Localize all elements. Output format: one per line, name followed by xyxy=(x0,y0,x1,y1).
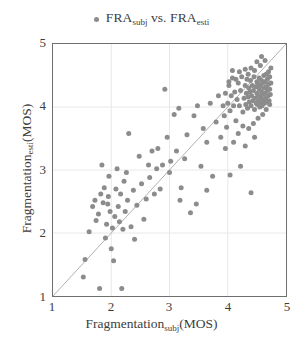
legend-dot-icon xyxy=(94,17,99,22)
scatter-point xyxy=(248,78,253,83)
scatter-point xyxy=(267,102,272,107)
scatter-point xyxy=(104,222,109,227)
scatter-point xyxy=(239,74,244,79)
scatter-point xyxy=(232,89,237,94)
scatter-point xyxy=(90,204,95,209)
scatter-point xyxy=(267,74,272,79)
scatter-point xyxy=(177,198,182,203)
scatter-point xyxy=(132,237,137,242)
scatter-point xyxy=(267,87,272,92)
plot-canvas xyxy=(53,44,286,296)
scatter-point xyxy=(152,191,157,196)
scatter-point xyxy=(139,181,144,186)
scatter-point xyxy=(125,198,130,203)
scatter-point xyxy=(249,103,254,108)
scatter-point xyxy=(112,214,117,219)
scatter-point xyxy=(246,72,251,77)
scatter-point xyxy=(99,162,104,167)
legend-subscript-subj: subj xyxy=(132,16,147,26)
scatter-point xyxy=(229,93,234,98)
scatter-point xyxy=(182,156,187,161)
scatter-point xyxy=(103,236,108,241)
x-axis-title-subscript: subj xyxy=(164,323,179,333)
y-axis-title: Fragmentationesti(MOS) xyxy=(19,33,36,303)
scatter-point xyxy=(113,186,118,191)
scatter-point xyxy=(235,97,240,102)
scatter-point xyxy=(268,65,273,70)
scatter-point xyxy=(226,79,231,84)
scatter-point xyxy=(179,185,184,190)
scatter-point xyxy=(168,159,173,164)
scatter-point xyxy=(191,113,196,118)
scatter-point xyxy=(237,103,242,108)
scatter-point xyxy=(106,174,111,179)
scatter-point xyxy=(259,54,264,59)
scatter-point xyxy=(233,118,238,123)
scatter-point xyxy=(260,112,265,117)
x-axis-title: Fragmentationsubj(MOS) xyxy=(0,316,303,333)
scatter-point xyxy=(233,77,238,82)
scatter-point xyxy=(162,87,167,92)
scatter-point xyxy=(268,81,273,86)
scatter-point xyxy=(174,149,179,154)
scatter-point xyxy=(204,188,209,193)
scatter-point xyxy=(225,101,230,106)
scatter-point xyxy=(224,125,229,130)
scatter-point xyxy=(231,103,236,108)
scatter-point xyxy=(231,140,236,145)
scatter-point xyxy=(249,65,254,70)
scatter-plot-figure: FRAsubj vs. FRAesti 5 4 3 2 1 1 2 3 4 5 … xyxy=(0,0,303,348)
scatter-point xyxy=(268,92,273,97)
scatter-point xyxy=(109,246,114,251)
scatter-point xyxy=(236,131,241,136)
scatter-point xyxy=(172,112,177,117)
scatter-point xyxy=(176,106,181,111)
chart-legend: FRAsubj vs. FRAesti xyxy=(0,6,303,30)
scatter-point xyxy=(146,162,151,167)
scatter-point xyxy=(246,126,251,131)
scatter-point xyxy=(210,174,215,179)
scatter-point xyxy=(123,209,128,214)
scatter-point xyxy=(108,209,113,214)
scatter-point xyxy=(258,63,263,68)
legend-label: FRAsubj vs. FRAesti xyxy=(106,10,209,27)
scatter-point xyxy=(144,196,149,201)
scatter-point xyxy=(154,166,159,171)
scatter-point xyxy=(83,257,88,262)
scatter-point xyxy=(115,166,120,171)
scatter-point xyxy=(165,135,170,140)
scatter-point xyxy=(201,126,206,131)
legend-subscript-esti: esti xyxy=(197,16,210,26)
scatter-point xyxy=(137,154,142,159)
scatter-point xyxy=(87,229,92,234)
scatter-point xyxy=(218,135,223,140)
scatter-point xyxy=(228,173,233,178)
scatter-point xyxy=(131,188,136,193)
scatter-point xyxy=(118,191,123,196)
scatter-point xyxy=(238,164,243,169)
scatter-point xyxy=(243,67,248,72)
scatter-point xyxy=(188,210,193,215)
scatter-point xyxy=(81,275,86,280)
scatter-point xyxy=(105,202,110,207)
scatter-point xyxy=(214,120,219,125)
scatter-point xyxy=(238,88,243,93)
scatter-point xyxy=(263,58,268,63)
x-tick-label-5: 5 xyxy=(276,299,298,315)
scatter-point xyxy=(117,219,122,224)
scatter-point xyxy=(240,123,245,128)
scatter-point xyxy=(120,227,125,232)
x-axis-title-main: Fragmentation xyxy=(85,316,164,331)
x-tick-label-1: 1 xyxy=(41,299,63,315)
scatter-point xyxy=(96,212,101,217)
scatter-point xyxy=(243,144,248,149)
scatter-point xyxy=(158,186,163,191)
scatter-point xyxy=(240,110,245,115)
x-tick-label-4: 4 xyxy=(217,299,239,315)
scatter-point xyxy=(155,146,160,151)
scatter-point xyxy=(119,286,124,291)
scatter-point xyxy=(111,258,116,263)
y-axis-title-unit: (MOS) xyxy=(19,104,34,142)
scatter-point xyxy=(195,103,200,108)
scatter-point xyxy=(223,146,228,151)
